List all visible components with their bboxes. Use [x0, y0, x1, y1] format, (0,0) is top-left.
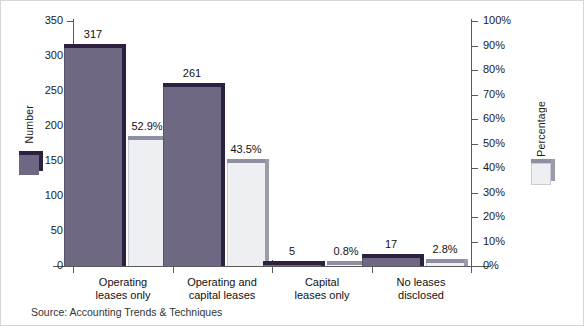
bar-top: [263, 261, 321, 265]
bar-value-label: 2.8%: [416, 243, 474, 255]
right-tick-label: 10%: [483, 236, 527, 247]
right-tick: [472, 193, 478, 194]
bar-side: [122, 44, 126, 266]
bar-number: [362, 254, 420, 266]
source-note: Source: Accounting Trends & Techniques: [31, 306, 222, 318]
left-tick: [67, 21, 73, 22]
bar-top: [362, 254, 420, 258]
right-tick: [472, 21, 478, 22]
right-tick-label: 100%: [483, 15, 527, 26]
right-tick-label: 30%: [483, 187, 527, 198]
right-tick-label: 70%: [483, 89, 527, 100]
category-label-line: disclosed: [361, 289, 481, 302]
left-tick-label: 250: [27, 85, 63, 96]
left-tick-label: 150: [27, 155, 63, 166]
bar-top: [64, 44, 122, 48]
left-tick-label: 300: [27, 50, 63, 61]
bar-top: [163, 83, 221, 87]
right-tick-label: 40%: [483, 162, 527, 173]
bar-value-label: 43.5%: [217, 143, 275, 155]
left-tick-label: 200: [27, 120, 63, 131]
bar-side: [321, 261, 325, 266]
right-tick-label: 0%: [483, 260, 527, 271]
legend-swatch-percentage: [531, 159, 555, 185]
left-tick-label: 50: [27, 225, 63, 236]
category-label: No leasesdisclosed: [361, 276, 481, 302]
left-tick-label: 0: [27, 260, 63, 271]
bar-top: [128, 136, 166, 140]
bar-top: [327, 261, 365, 265]
right-tick-label: 80%: [483, 64, 527, 75]
bar-face: [128, 136, 167, 266]
right-tick: [472, 217, 478, 218]
bar-value-label: 317: [58, 28, 128, 40]
bar-face: [64, 44, 123, 266]
swatch-side: [551, 159, 555, 181]
bar-percentage: [426, 259, 464, 266]
bar-top: [227, 159, 265, 163]
category-label-line: No leases: [361, 276, 481, 289]
right-tick-label: 20%: [483, 211, 527, 222]
bar-number: [263, 261, 321, 266]
right-tick: [472, 95, 478, 96]
right-tick: [472, 46, 478, 47]
bar-value-label: 261: [157, 67, 227, 79]
bar-side: [420, 254, 424, 266]
left-tick-label: 350: [27, 15, 63, 26]
right-axis-line: [471, 19, 472, 267]
bar-side: [464, 259, 468, 266]
right-tick: [472, 70, 478, 71]
swatch-face: [531, 163, 551, 185]
right-tick: [472, 168, 478, 169]
bar-percentage: [327, 261, 365, 266]
bar-number: [64, 44, 122, 266]
bar-top: [426, 259, 464, 263]
right-tick: [472, 119, 478, 120]
bar-number: [163, 83, 221, 266]
right-axis-title: Percentage: [535, 101, 547, 157]
right-tick-label: 60%: [483, 113, 527, 124]
chart-figure: Number Percentage 050100150200250300350 …: [0, 0, 584, 326]
right-tick: [472, 266, 478, 267]
right-tick-label: 50%: [483, 138, 527, 149]
category-separator: [471, 260, 472, 273]
bar-percentage: [128, 136, 166, 266]
bar-face: [163, 83, 222, 266]
left-tick-label: 100: [27, 190, 63, 201]
right-tick: [472, 144, 478, 145]
right-tick-label: 90%: [483, 40, 527, 51]
bar-side: [221, 83, 225, 266]
